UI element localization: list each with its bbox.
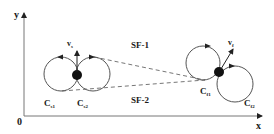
path-sf2-line bbox=[62, 80, 205, 91]
final-position-dot bbox=[214, 67, 224, 77]
arrow-cs1-direction-icon bbox=[57, 55, 63, 60]
circle-cf1 bbox=[186, 46, 220, 80]
axes: y 0 x bbox=[14, 9, 262, 131]
label-cs1: Cs1 bbox=[44, 98, 55, 109]
velocity-start-label: vs bbox=[67, 39, 73, 49]
arrow-cf2-direction-icon bbox=[229, 64, 235, 69]
diagram-canvas: y 0 x SF-1 SF-2 vs Cs1 Cs2 vf Cf1 Cf2 bbox=[0, 0, 274, 134]
path-sf2-label: SF-2 bbox=[131, 95, 150, 105]
final-configuration: vf Cf1 Cf2 bbox=[186, 38, 255, 109]
origin-label: 0 bbox=[17, 116, 22, 127]
label-cf1: Cf1 bbox=[200, 86, 211, 97]
x-axis-label: x bbox=[256, 120, 261, 131]
arrow-cs2-direction-icon bbox=[89, 55, 95, 60]
start-configuration: vs Cs1 Cs2 bbox=[44, 39, 110, 109]
path-sf1-label: SF-1 bbox=[131, 40, 150, 50]
dashed-paths: SF-1 SF-2 bbox=[62, 40, 205, 105]
path-sf1-line bbox=[94, 57, 205, 80]
y-axis-label: y bbox=[14, 9, 19, 20]
velocity-final-label: vf bbox=[228, 38, 234, 48]
label-cs2: Cs2 bbox=[77, 98, 88, 109]
label-cf2: Cf2 bbox=[244, 98, 255, 109]
